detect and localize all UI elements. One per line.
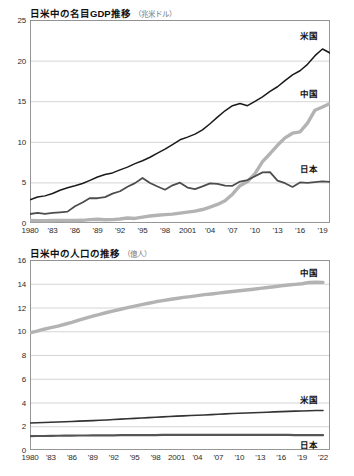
panel-title-gdp: 日米中の名目GDP推移（兆米ドル） — [30, 6, 176, 20]
plot-frame — [31, 21, 330, 223]
x-tick-label: 1980 — [22, 453, 39, 462]
panel-title-gdp-text: 日米中の名目GDP推移 — [30, 8, 131, 19]
x-tick-label: '95 — [130, 453, 140, 462]
x-tick-label: '16 — [276, 453, 286, 462]
y-tick-label: 16 — [6, 256, 26, 265]
y-tick-label: 10 — [6, 327, 26, 336]
x-tick-label: '98 — [151, 453, 161, 462]
x-tick-label: '86 — [70, 226, 80, 235]
series-label-日本: 日本 — [300, 438, 318, 450]
y-tick-label: 2 — [6, 422, 26, 431]
y-tick-label: 25 — [6, 16, 26, 25]
x-tick-label: '83 — [48, 226, 58, 235]
x-tick-label: 2001 — [179, 226, 196, 235]
series-line-日本 — [30, 435, 323, 436]
x-tick-label: '98 — [160, 226, 170, 235]
chart-figure: 日米中の名目GDP推移（兆米ドル） 05101520251980'83'86'8… — [0, 0, 354, 476]
series-label-日本: 日本 — [300, 162, 318, 174]
x-tick-label: 2001 — [168, 453, 185, 462]
y-tick-label: 5 — [6, 178, 26, 187]
panel-unit-gdp: （兆米ドル） — [134, 10, 176, 19]
panel-title-pop: 日米中の人口の推移（億人） — [30, 246, 151, 260]
y-tick-label: 12 — [6, 303, 26, 312]
x-tick-label: 1980 — [22, 226, 39, 235]
plot-svg-pop — [30, 260, 330, 450]
x-tick-label: '95 — [138, 226, 148, 235]
series-label-中国: 中国 — [300, 266, 318, 278]
x-tick-label: '19 — [297, 453, 307, 462]
y-tick-label: 15 — [6, 97, 26, 106]
x-tick-label: '07 — [228, 226, 238, 235]
x-tick-label: '07 — [213, 453, 223, 462]
x-tick-label: '92 — [109, 453, 119, 462]
chart-panel-gdp: 日米中の名目GDP推移（兆米ドル） 05101520251980'83'86'8… — [0, 0, 354, 248]
x-tick-label: '13 — [255, 453, 265, 462]
panel-unit-pop: （億人） — [123, 250, 151, 259]
y-tick-label: 14 — [6, 279, 26, 288]
series-line-中国 — [30, 282, 323, 333]
x-tick-label: '16 — [295, 226, 305, 235]
panel-title-pop-text: 日米中の人口の推移 — [30, 248, 120, 259]
y-tick-label: 20 — [6, 56, 26, 65]
x-tick-label: '10 — [250, 226, 260, 235]
x-tick-label: '04 — [193, 453, 203, 462]
y-tick-label: 10 — [6, 137, 26, 146]
series-line-中国 — [30, 103, 330, 220]
series-label-中国: 中国 — [300, 87, 318, 99]
series-line-米国 — [30, 410, 323, 423]
x-tick-label: '89 — [88, 453, 98, 462]
x-tick-label: '13 — [273, 226, 283, 235]
x-tick-label: '86 — [67, 453, 77, 462]
x-tick-label: '92 — [115, 226, 125, 235]
x-tick-label: '10 — [234, 453, 244, 462]
x-tick-label: '83 — [46, 453, 56, 462]
x-tick-label: '19 — [318, 226, 328, 235]
x-tick-label: '89 — [93, 226, 103, 235]
series-label-米国: 米国 — [300, 29, 318, 41]
x-tick-label: '22 — [318, 453, 328, 462]
plot-area-pop — [30, 260, 330, 450]
series-line-日本 — [30, 172, 330, 214]
plot-area-gdp — [30, 20, 330, 223]
plot-svg-gdp — [30, 20, 330, 223]
y-tick-label: 8 — [6, 351, 26, 360]
chart-panel-pop: 日米中の人口の推移（億人） 02468101214161980'83'86'89… — [0, 240, 354, 476]
y-tick-label: 6 — [6, 374, 26, 383]
series-line-米国 — [30, 49, 330, 200]
y-tick-label: 4 — [6, 398, 26, 407]
series-label-米国: 米国 — [300, 393, 318, 405]
x-tick-label: '04 — [205, 226, 215, 235]
